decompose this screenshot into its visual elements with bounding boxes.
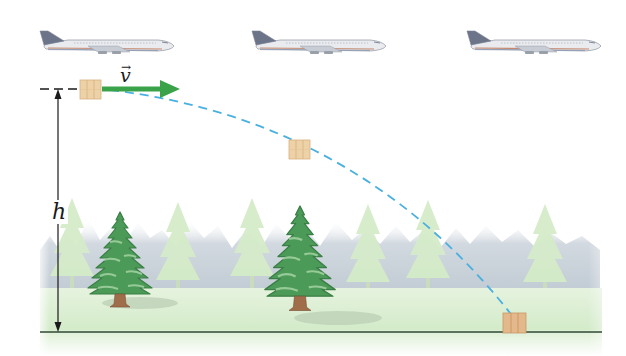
airplane-2 [252, 31, 386, 54]
package-landed [503, 313, 526, 333]
velocity-label: v [120, 64, 131, 86]
airplane-3 [467, 31, 601, 54]
height-label: h [50, 200, 68, 224]
package-midflight [289, 140, 310, 159]
package-release [80, 80, 101, 99]
airplane-1 [40, 31, 174, 54]
projectile-diagram [0, 0, 626, 356]
